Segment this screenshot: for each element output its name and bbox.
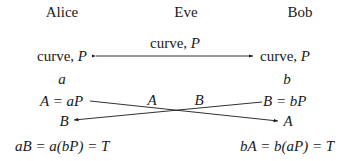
- bob-received: A: [283, 114, 292, 129]
- party-eve: Eve: [174, 5, 197, 20]
- alice-secret: a: [58, 72, 66, 87]
- arrows-layer: [0, 0, 354, 161]
- arrow-b-to-alice: [74, 102, 262, 120]
- bob-shared-secret: bA = b(aP) = T: [240, 139, 334, 154]
- alice-public-key: A = aP: [40, 94, 83, 109]
- exchange-label-a: A: [147, 93, 156, 108]
- party-bob: Bob: [287, 5, 312, 20]
- bob-secret: b: [283, 72, 291, 87]
- public-channel-label: curve, P: [150, 36, 200, 51]
- party-alice: Alice: [46, 5, 78, 20]
- exchange-label-b: B: [194, 93, 203, 108]
- alice-received: B: [59, 114, 68, 129]
- arrow-a-to-bob: [90, 101, 278, 121]
- bob-public-key: B = bP: [263, 94, 306, 109]
- bob-curve: curve, P: [260, 49, 310, 64]
- alice-shared-secret: aB = a(bP) = T: [15, 139, 109, 154]
- alice-curve: curve, P: [37, 49, 87, 64]
